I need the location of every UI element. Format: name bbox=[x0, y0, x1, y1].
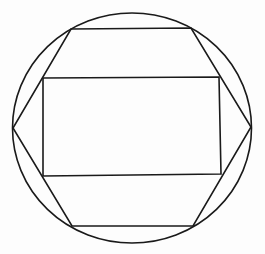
circumscribed-circle bbox=[13, 13, 252, 243]
inscribed-hexagon bbox=[13, 28, 251, 226]
inscribed-rectangle bbox=[43, 77, 221, 176]
geometry-figure bbox=[0, 0, 265, 254]
diagram-canvas bbox=[0, 0, 265, 254]
